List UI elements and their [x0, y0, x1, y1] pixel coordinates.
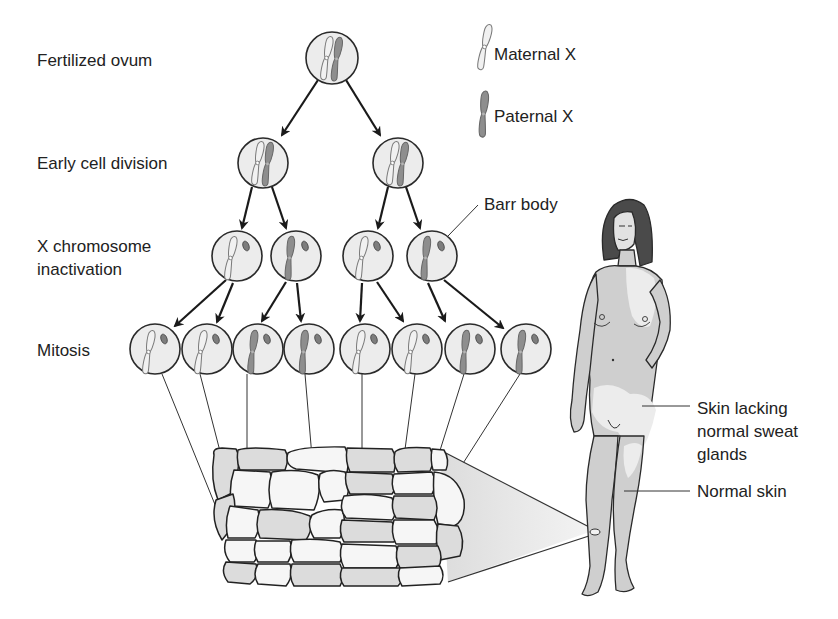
mitosis-cell-1	[130, 324, 180, 374]
label-mitosis: Mitosis	[37, 340, 90, 361]
early-division-cell-2	[373, 138, 423, 188]
face	[614, 212, 636, 251]
mitosis-cell-8	[501, 324, 551, 374]
legend-maternal-x: Maternal X	[494, 44, 576, 65]
callout-barr-body: Barr body	[484, 194, 558, 215]
mitosis-cell-6	[392, 324, 442, 374]
mitosis-cell-3	[233, 324, 283, 374]
mitosis-cell-5	[340, 324, 390, 374]
label-x-chromosome: X chromosome	[37, 236, 151, 257]
barr-body-leader	[448, 205, 478, 236]
mitosis-cell-2	[182, 324, 232, 374]
inactivation-cell-2	[271, 231, 321, 281]
early-division-cell-1	[238, 138, 288, 188]
label-inactivation: inactivation	[37, 259, 122, 280]
mitosis-cell-7	[445, 324, 495, 374]
callout-skin-lacking-2: normal sweat	[697, 421, 798, 442]
label-fertilized-ovum: Fertilized ovum	[37, 50, 152, 71]
x-inactivation-diagram	[0, 0, 838, 619]
inactivation-cell-1	[212, 231, 262, 281]
callout-skin-lacking-3: glands	[697, 444, 747, 465]
maternal-x-legend-icon	[477, 24, 493, 71]
woman-figure	[570, 200, 670, 596]
legend-paternal-x: Paternal X	[494, 106, 573, 127]
callout-skin-lacking-1: Skin lacking	[697, 398, 788, 419]
paternal-x-legend-icon	[479, 91, 489, 137]
label-early-cell-division: Early cell division	[37, 153, 167, 174]
fertilized-ovum-cell	[306, 32, 358, 84]
inactivation-cell-4	[407, 231, 457, 281]
callout-normal-skin: Normal skin	[697, 481, 787, 502]
inactivation-cell-3	[343, 231, 393, 281]
skin-tissue-patch	[213, 447, 465, 586]
magnified-skin-point	[590, 529, 600, 535]
division-arrows	[175, 80, 503, 328]
mitosis-cell-4	[284, 324, 334, 374]
left-leg	[582, 436, 618, 596]
mitosis-cells	[130, 324, 551, 374]
